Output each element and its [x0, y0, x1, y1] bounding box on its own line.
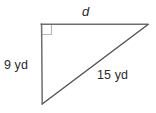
triangle-side-vertical-leg: [42, 24, 43, 104]
diagram-background: [0, 0, 156, 113]
side-label-unknown-d: d: [82, 5, 89, 18]
side-label-vertical-leg: 9 yd: [4, 59, 28, 72]
side-label-hypotenuse: 15 yd: [97, 69, 128, 82]
triangle-diagram: [0, 0, 156, 113]
